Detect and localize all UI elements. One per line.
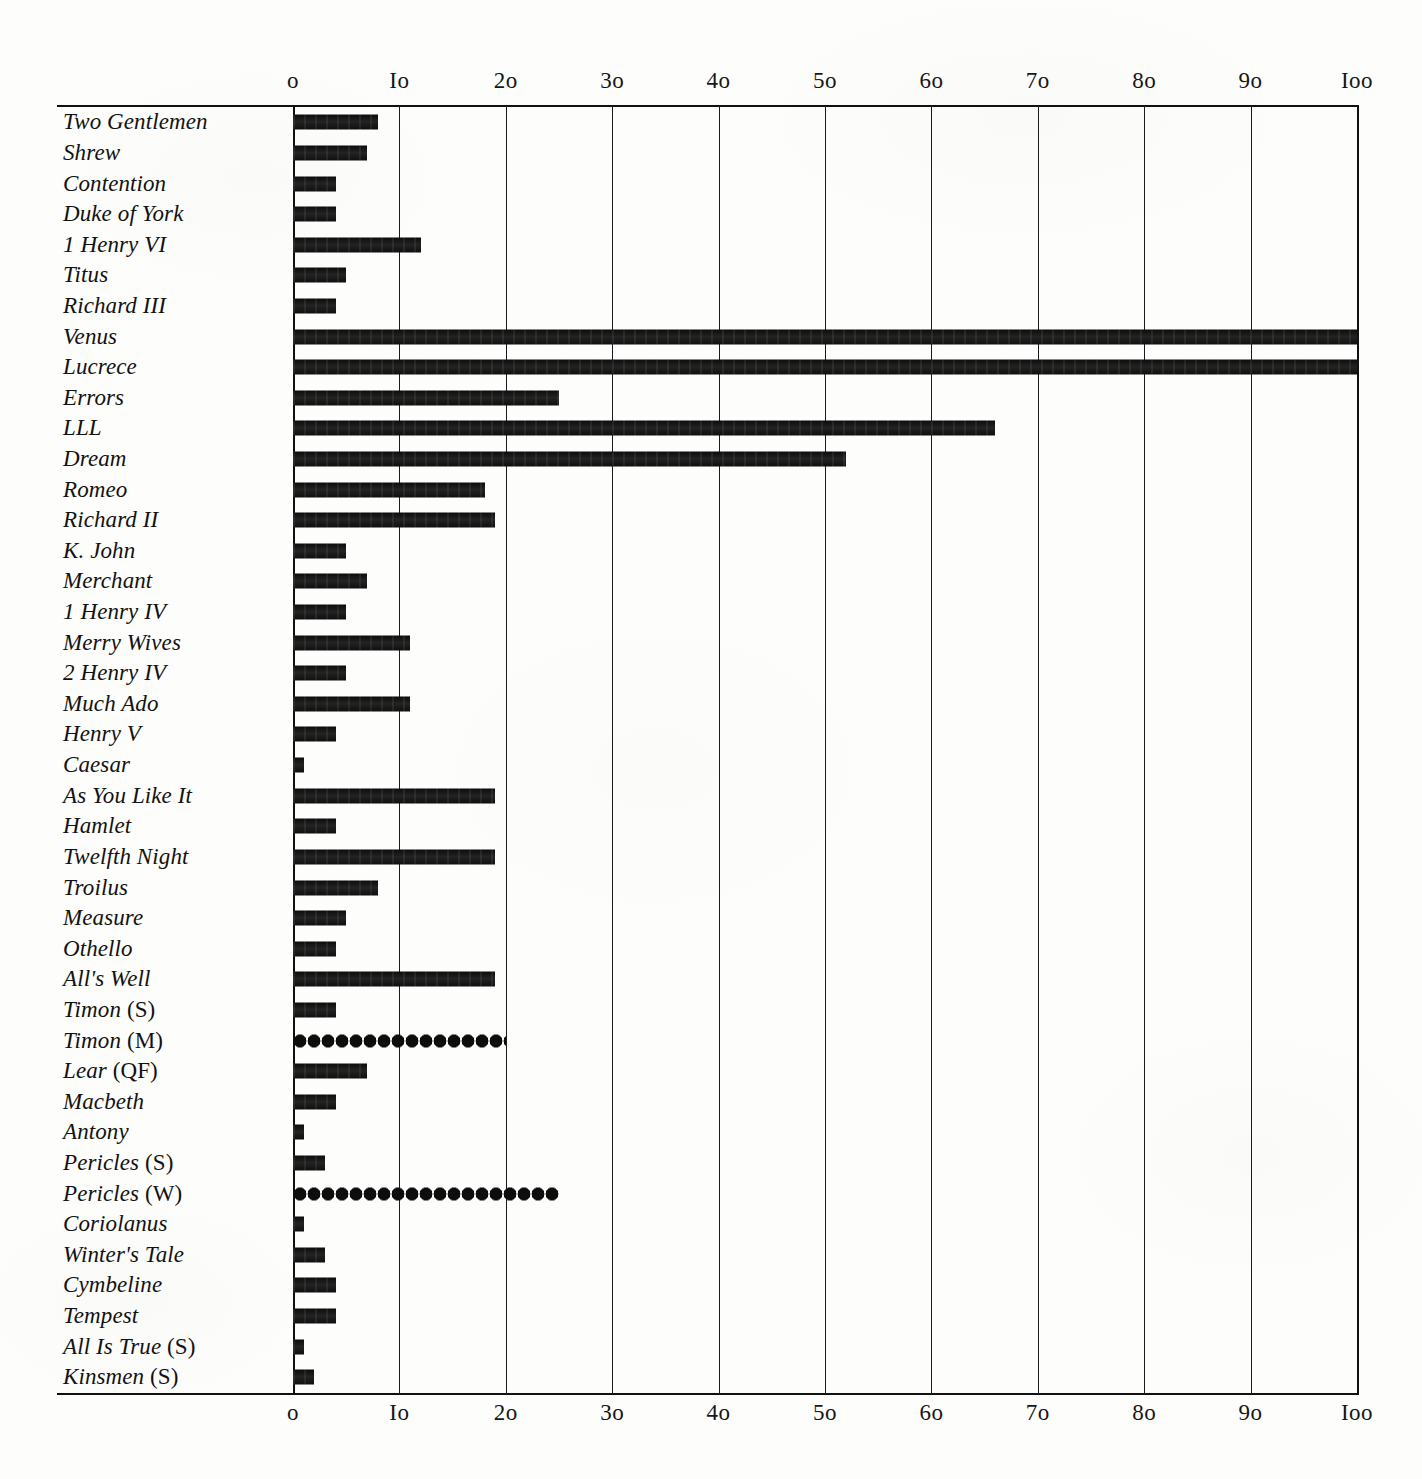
- category-label: 1 Henry VI: [63, 232, 166, 258]
- bar-row: Tempest: [57, 1301, 1358, 1332]
- bar: [293, 696, 410, 711]
- x-tick-label: 2o: [494, 1400, 518, 1426]
- x-tick-label: 5o: [813, 68, 837, 94]
- bar-row: Richard II: [57, 505, 1358, 536]
- bar-row: Merchant: [57, 566, 1358, 597]
- category-label: Measure: [63, 905, 143, 931]
- frame-rule-bottom: [57, 1393, 1358, 1395]
- x-tick-label: 2o: [494, 68, 518, 94]
- category-label: All's Well: [63, 966, 151, 992]
- bar: [293, 880, 378, 895]
- bar-track: [293, 872, 1357, 903]
- bar-row: All's Well: [57, 964, 1358, 995]
- category-label: Timon (S): [63, 997, 155, 1023]
- category-label: All Is True (S): [63, 1334, 196, 1360]
- bar-row: All Is True (S): [57, 1331, 1358, 1362]
- bar-track: [293, 199, 1357, 230]
- bar: [293, 543, 346, 558]
- bar-track: [293, 1240, 1357, 1271]
- plot-area: Two GentlemenShrewContentionDuke of York…: [57, 105, 1358, 1395]
- bar-row: Merry Wives: [57, 627, 1358, 658]
- bar: [293, 1094, 336, 1109]
- category-label: Merchant: [63, 568, 152, 594]
- bar-track: [293, 719, 1357, 750]
- category-label: Richard III: [63, 293, 166, 319]
- category-label: Caesar: [63, 752, 130, 778]
- bar-track: [293, 168, 1357, 199]
- bar-track: [293, 933, 1357, 964]
- bar-row: Shrew: [57, 138, 1358, 169]
- x-tick-label: 6o: [919, 1400, 943, 1426]
- bar-track: [293, 1117, 1357, 1148]
- category-label: Macbeth: [63, 1089, 144, 1115]
- bar: [293, 605, 346, 620]
- bar-row: Winter's Tale: [57, 1240, 1358, 1271]
- bar-track: [293, 689, 1357, 720]
- bar-row: Timon (S): [57, 995, 1358, 1026]
- bar-row: Measure: [57, 903, 1358, 934]
- bar-track: [293, 321, 1357, 352]
- bar-track: [293, 1209, 1357, 1240]
- bar: [293, 635, 410, 650]
- bar-row: LLL: [57, 413, 1358, 444]
- bar-track: [293, 107, 1357, 138]
- bar: [293, 788, 495, 803]
- category-label: Kinsmen (S): [63, 1364, 178, 1390]
- bar-row: Much Ado: [57, 689, 1358, 720]
- bar-row: Antony: [57, 1117, 1358, 1148]
- bar-track: [293, 811, 1357, 842]
- bar-row: 1 Henry IV: [57, 597, 1358, 628]
- bar-row: Macbeth: [57, 1087, 1358, 1118]
- x-tick-label: 8o: [1132, 1400, 1156, 1426]
- bar: [293, 207, 336, 222]
- x-tick-label: 3o: [600, 1400, 624, 1426]
- bar-track: [293, 1301, 1357, 1332]
- category-label: Othello: [63, 936, 133, 962]
- bar-row: Hamlet: [57, 811, 1358, 842]
- x-tick-label: 4o: [707, 1400, 731, 1426]
- bar-row: Troilus: [57, 872, 1358, 903]
- bar-row: Twelfth Night: [57, 842, 1358, 873]
- bar: [293, 1156, 325, 1171]
- bar: [293, 911, 346, 926]
- bar-row: Contention: [57, 168, 1358, 199]
- bar-row: Venus: [57, 321, 1358, 352]
- bar-row: Cymbeline: [57, 1270, 1358, 1301]
- bar: [293, 1032, 506, 1049]
- category-label: K. John: [63, 538, 135, 564]
- bar: [293, 941, 336, 956]
- bar: [293, 329, 1357, 344]
- bar: [293, 1217, 304, 1232]
- x-tick-label: 9o: [1239, 68, 1263, 94]
- bar-row: Pericles (W): [57, 1178, 1358, 1209]
- bar: [293, 1339, 304, 1354]
- category-label: LLL: [63, 415, 102, 441]
- bar-track: [293, 995, 1357, 1026]
- bar: [293, 1247, 325, 1262]
- x-tick-label: 9o: [1239, 1400, 1263, 1426]
- bar-row: As You Like It: [57, 780, 1358, 811]
- bar-track: [293, 138, 1357, 169]
- category-label: Tempest: [63, 1303, 138, 1329]
- category-label: Duke of York: [63, 201, 183, 227]
- bar-row: Coriolanus: [57, 1209, 1358, 1240]
- bar: [293, 482, 485, 497]
- category-label: Antony: [63, 1119, 129, 1145]
- bar-track: [293, 1025, 1357, 1056]
- bar-row: Othello: [57, 933, 1358, 964]
- bar-track: [293, 903, 1357, 934]
- bar: [293, 115, 378, 130]
- bar-track: [293, 260, 1357, 291]
- bar-row: Titus: [57, 260, 1358, 291]
- bar-chart-figure: oIo2o3o4o5o6o7o8o9oIoo Two GentlemenShre…: [0, 0, 1422, 1479]
- bar: [293, 145, 367, 160]
- bar-row: Kinsmen (S): [57, 1362, 1358, 1393]
- x-tick-label: Ioo: [1341, 68, 1373, 94]
- bar-row: Errors: [57, 382, 1358, 413]
- bar-track: [293, 1270, 1357, 1301]
- category-label: Timon (M): [63, 1028, 163, 1054]
- category-label: Twelfth Night: [63, 844, 188, 870]
- bar: [293, 452, 846, 467]
- bar-track: [293, 474, 1357, 505]
- bar: [293, 513, 495, 528]
